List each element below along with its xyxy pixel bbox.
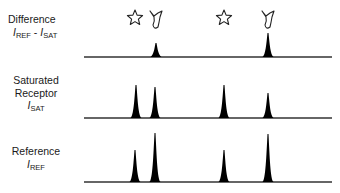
reference-peak-4 (263, 134, 274, 182)
star-icon (216, 10, 231, 25)
reference-peak-3 (219, 150, 230, 182)
star-icon (127, 10, 142, 25)
ligand-icon (150, 11, 162, 28)
spectra-plot (0, 0, 340, 193)
reference-peak-2 (150, 133, 161, 182)
saturated-peak-1 (131, 85, 142, 118)
difference-peak-2 (263, 33, 274, 57)
reference-peak-1 (130, 150, 141, 182)
saturated-peak-4 (263, 93, 274, 118)
ligand-icon (262, 11, 274, 28)
saturated-peak-2 (150, 87, 161, 118)
saturated-peak-3 (219, 85, 230, 118)
difference-peak-1 (151, 43, 162, 57)
